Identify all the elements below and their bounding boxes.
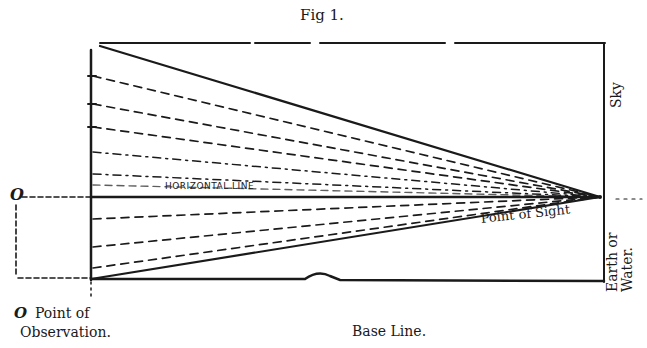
- solid-ray-top: [100, 46, 600, 197]
- observation-o-label: O: [14, 306, 27, 321]
- figure-title: Fig 1.: [300, 8, 344, 23]
- point-of-label: Point of: [35, 306, 89, 320]
- diagram-canvas: [0, 0, 647, 348]
- water-text: Water.: [620, 233, 635, 292]
- perspective-diagram: Fig 1. HORIZONTAL LINE Point of Sight Sk…: [0, 0, 647, 348]
- point-of-sight-marker: [598, 195, 602, 199]
- eye-point-o-label: O: [10, 187, 24, 203]
- sky-label: Sky: [609, 82, 623, 108]
- dashed-rays-above: [93, 76, 600, 197]
- earth-or-water-label: Earth or Water.: [605, 233, 634, 292]
- earth-or-text: Earth or: [605, 233, 620, 292]
- observation-label: Observation.: [20, 325, 111, 339]
- base-line: [91, 274, 604, 281]
- horizontal-line-label: HORIZONTAL LINE: [165, 182, 254, 191]
- eye-height-outline: [16, 197, 91, 278]
- base-line-label: Base Line.: [352, 324, 426, 338]
